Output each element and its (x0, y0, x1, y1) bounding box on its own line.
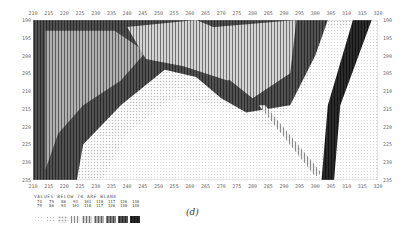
legend-range: 110117 (94, 200, 105, 208)
x-tick-label: 310 (342, 184, 351, 189)
legend-item: 101110 (82, 200, 93, 227)
x-tick-label: 280 (248, 11, 257, 16)
y-tick-label: 225 (22, 142, 31, 147)
x-tick-label: 280 (248, 184, 257, 189)
x-tick-label: 240 (123, 184, 132, 189)
figure-caption: (d) (186, 207, 199, 217)
legend-swatch (130, 216, 140, 223)
legend-range: 130140 (130, 200, 141, 208)
x-tick-label: 285 (264, 184, 273, 189)
legend-swatch (118, 216, 128, 223)
x-tick-label: 265 (201, 11, 210, 16)
legend-item: 117126 (106, 200, 117, 227)
x-tick-label: 215 (44, 11, 53, 16)
x-tick-label: 225 (76, 184, 85, 189)
legend-swatch (34, 216, 44, 223)
x-tick-label: 255 (170, 184, 179, 189)
y-tick-label: 220 (22, 125, 31, 130)
x-tick-label: 310 (342, 11, 351, 16)
x-tick-label: 275 (232, 11, 241, 16)
y-tick-label: 205 (22, 71, 31, 76)
x-tick-label: 255 (170, 11, 179, 16)
x-tick-label: 260 (185, 11, 194, 16)
heatmap-plot (33, 20, 378, 180)
legend-swatch (58, 216, 68, 223)
x-tick-label: 270 (217, 184, 226, 189)
x-tick-label: 295 (295, 11, 304, 16)
y-tick-label: 215 (383, 107, 392, 112)
x-tick-label: 245 (138, 184, 147, 189)
x-tick-label: 295 (295, 184, 304, 189)
x-tick-label: 320 (373, 11, 382, 16)
x-tick-label: 210 (28, 184, 37, 189)
y-tick-label: 210 (22, 89, 31, 94)
legend-swatch (82, 216, 92, 223)
legend-range: 117126 (106, 200, 117, 208)
x-tick-label: 265 (201, 184, 210, 189)
x-tick-label: 210 (28, 11, 37, 16)
legend-swatch (70, 216, 80, 223)
legend-range: 93101 (70, 200, 81, 208)
x-tick-label: 300 (311, 184, 320, 189)
legend-item: 126130 (118, 200, 129, 227)
x-tick-label: 290 (279, 184, 288, 189)
y-tick-label: 230 (22, 160, 31, 165)
x-tick-label: 225 (76, 11, 85, 16)
x-tick-label: 305 (326, 11, 335, 16)
y-tick-label: 220 (383, 125, 392, 130)
legend-range: 7986 (46, 200, 57, 208)
x-tick-label: 235 (107, 11, 116, 16)
x-tick-label: 215 (44, 184, 53, 189)
legend-range: 101110 (82, 200, 93, 208)
x-tick-label: 290 (279, 11, 288, 16)
y-tick-label: 190 (383, 18, 392, 23)
x-tick-label: 235 (107, 184, 116, 189)
x-tick-label: 230 (91, 184, 100, 189)
x-tick-label: 220 (60, 11, 69, 16)
legend-swatch (94, 216, 104, 223)
legend-item: 7986 (46, 200, 57, 227)
x-tick-label: 285 (264, 11, 273, 16)
legend-item: 110117 (94, 200, 105, 227)
y-tick-label: 225 (383, 142, 392, 147)
legend-range: 8693 (58, 200, 69, 208)
x-tick-label: 260 (185, 184, 194, 189)
y-tick-label: 230 (383, 160, 392, 165)
legend-item: 93101 (70, 200, 81, 227)
y-tick-label: 195 (383, 36, 392, 41)
x-tick-label: 270 (217, 11, 226, 16)
legend-item: 130140 (130, 200, 141, 227)
legend-item: 7479 (34, 200, 45, 227)
y-tick-label: 235 (22, 178, 31, 183)
x-tick-label: 250 (154, 184, 163, 189)
y-tick-label: 215 (22, 107, 31, 112)
y-tick-label: 205 (383, 71, 392, 76)
x-tick-label: 315 (358, 184, 367, 189)
legend-range: 7479 (34, 200, 45, 208)
x-tick-label: 240 (123, 11, 132, 16)
x-tick-label: 320 (373, 184, 382, 189)
x-tick-label: 305 (326, 184, 335, 189)
legend-item: 8693 (58, 200, 69, 227)
y-tick-label: 200 (383, 54, 392, 59)
legend-swatch (106, 216, 116, 223)
legend-swatch (46, 216, 56, 223)
y-tick-label: 210 (383, 89, 392, 94)
x-tick-label: 315 (358, 11, 367, 16)
y-tick-label: 235 (383, 178, 392, 183)
y-tick-label: 200 (22, 54, 31, 59)
x-tick-label: 220 (60, 184, 69, 189)
y-tick-label: 195 (22, 36, 31, 41)
x-tick-label: 250 (154, 11, 163, 16)
y-tick-label: 190 (22, 18, 31, 23)
legend-range: 126130 (118, 200, 129, 208)
x-tick-label: 230 (91, 11, 100, 16)
x-tick-label: 300 (311, 11, 320, 16)
x-tick-label: 245 (138, 11, 147, 16)
x-tick-label: 275 (232, 184, 241, 189)
